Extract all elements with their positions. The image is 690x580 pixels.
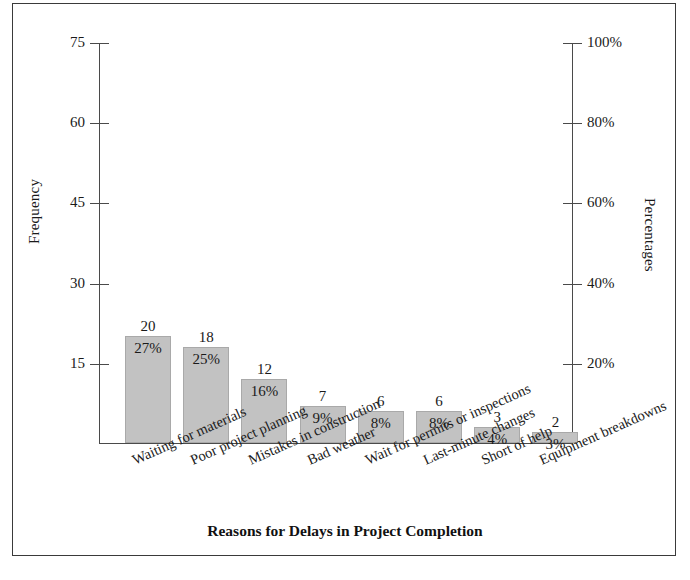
x-axis-category-labels: Waiting for materialsPoor project planni… (0, 0, 690, 580)
x-axis-title: Reasons for Delays in Project Completion (0, 522, 690, 540)
figure: 1530456075 20%40%60%80%100% 2027%1825%12… (0, 0, 690, 580)
x-axis-category-label: Equipment breakdowns (537, 398, 669, 468)
